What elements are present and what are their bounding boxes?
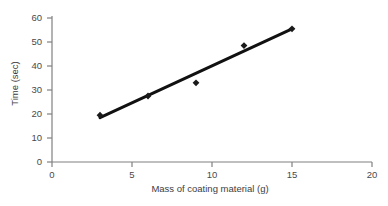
y-tick-label: 20: [20, 109, 42, 119]
y-tick-label: 50: [20, 37, 42, 47]
scatter-chart: 60 50 40 30 20 10 0 0 5 10 15 20 Mass of…: [0, 0, 388, 206]
x-axis-ticks: [52, 162, 372, 167]
y-tick-label: 60: [20, 13, 42, 23]
x-tick-label: 20: [360, 170, 384, 180]
y-axis-title: Time (sec): [9, 34, 20, 134]
x-tick-label: 0: [40, 170, 64, 180]
data-point: [241, 42, 248, 49]
y-tick-label: 30: [20, 85, 42, 95]
data-point: [193, 79, 200, 86]
y-tick-label: 10: [20, 133, 42, 143]
trendline: [100, 29, 292, 118]
x-axis-title: Mass of coating material (g): [60, 183, 360, 194]
x-tick-label: 5: [120, 170, 144, 180]
x-tick-label: 10: [200, 170, 224, 180]
y-tick-label: 40: [20, 61, 42, 71]
x-tick-label: 15: [280, 170, 304, 180]
y-tick-label: 0: [20, 157, 42, 167]
y-axis-ticks: [47, 18, 52, 162]
